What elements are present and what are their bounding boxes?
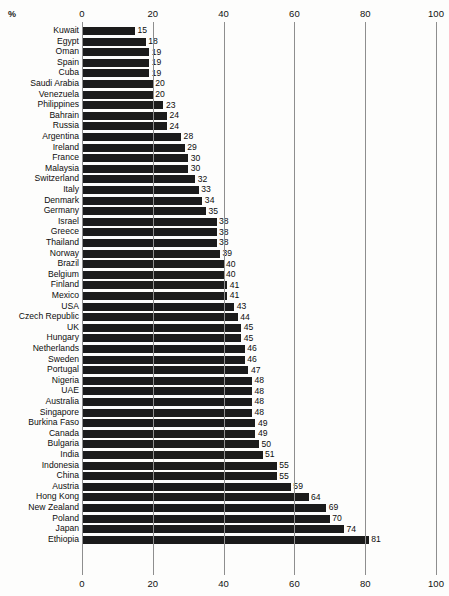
- category-label: Hungary: [0, 333, 79, 343]
- x-axis-tick-label-top: 20: [148, 8, 159, 19]
- bar: [82, 218, 217, 226]
- bar-value-label: 45: [244, 334, 254, 343]
- bar: [82, 154, 188, 162]
- category-label: Switzerland: [0, 174, 79, 184]
- category-label: Netherlands: [0, 344, 79, 354]
- category-label: Argentina: [0, 132, 79, 142]
- category-label: Hong Kong: [0, 492, 79, 502]
- bar-value-label: 49: [258, 429, 268, 438]
- bar: [82, 133, 181, 141]
- x-axis-tick-label-bottom: 20: [148, 578, 159, 589]
- bar-value-label: 30: [191, 154, 201, 163]
- category-label: China: [0, 471, 79, 481]
- category-label: Mexico: [0, 291, 79, 301]
- bar: [82, 440, 259, 448]
- bar: [82, 313, 238, 321]
- bar: [82, 472, 277, 480]
- category-label: Israel: [0, 217, 79, 227]
- bar-value-label: 41: [230, 281, 240, 290]
- category-label: Oman: [0, 47, 79, 57]
- bar: [82, 504, 326, 512]
- bar: [82, 112, 167, 120]
- gridline: [436, 22, 437, 575]
- category-label: Indonesia: [0, 461, 79, 471]
- bar-value-label: 48: [254, 376, 264, 385]
- bar: [82, 144, 185, 152]
- bar: [82, 186, 199, 194]
- category-label: New Zealand: [0, 503, 79, 513]
- bar-value-label: 40: [226, 270, 236, 279]
- x-axis-tick-label-top: 80: [360, 8, 371, 19]
- bar-value-label: 20: [155, 79, 165, 88]
- gridline: [82, 22, 83, 575]
- gridline: [224, 22, 225, 575]
- bar-value-label: 70: [332, 514, 342, 523]
- bar-value-label: 24: [169, 122, 179, 131]
- bar: [82, 356, 245, 364]
- category-label: Cuba: [0, 68, 79, 78]
- bar-value-label: 55: [279, 472, 289, 481]
- category-label: UAE: [0, 386, 79, 396]
- bar: [82, 483, 291, 491]
- bar: [82, 334, 241, 342]
- bar-value-label: 50: [262, 440, 272, 449]
- category-label: Germany: [0, 206, 79, 216]
- bar-value-label: 40: [226, 260, 236, 269]
- x-axis-tick-label-bottom: 80: [360, 578, 371, 589]
- bar: [82, 228, 217, 236]
- bar: [82, 250, 220, 258]
- category-label: France: [0, 153, 79, 163]
- gridline: [294, 22, 295, 575]
- bar: [82, 59, 149, 67]
- category-label: Brazil: [0, 259, 79, 269]
- bar: [82, 324, 241, 332]
- bar-value-label: 28: [184, 132, 194, 141]
- category-label: Denmark: [0, 196, 79, 206]
- gridline: [365, 22, 366, 575]
- bar-value-label: 23: [166, 101, 176, 110]
- bar-value-label: 29: [187, 143, 197, 152]
- bar-value-label: 35: [208, 207, 218, 216]
- bar-value-label: 48: [254, 408, 264, 417]
- x-axis-tick-label-top: 100: [428, 8, 444, 19]
- bar-value-label: 55: [279, 461, 289, 470]
- category-label: Egypt: [0, 37, 79, 47]
- category-label: Austria: [0, 482, 79, 492]
- category-label: Thailand: [0, 238, 79, 248]
- category-label: Malaysia: [0, 164, 79, 174]
- bar: [82, 345, 245, 353]
- bar: [82, 281, 227, 289]
- category-label: Portugal: [0, 365, 79, 375]
- category-label: Finland: [0, 280, 79, 290]
- bar-value-label: 32: [198, 175, 208, 184]
- category-label: Burkina Faso: [0, 418, 79, 428]
- bar: [82, 451, 263, 459]
- category-label: Norway: [0, 249, 79, 259]
- bar-value-label: 74: [346, 525, 356, 534]
- x-axis-tick-label-bottom: 40: [218, 578, 229, 589]
- bar-value-label: 46: [247, 344, 257, 353]
- category-label: Greece: [0, 227, 79, 237]
- category-label: Japan: [0, 524, 79, 534]
- bar-value-label: 34: [205, 196, 215, 205]
- bar: [82, 38, 146, 46]
- category-label: Philippines: [0, 100, 79, 110]
- bar: [82, 207, 206, 215]
- category-label: Kuwait: [0, 26, 79, 36]
- gridline: [153, 22, 154, 575]
- bar-chart: % Kuwait15Egypt18Oman19Spain19Cuba19Saud…: [0, 0, 449, 596]
- bar-value-label: 69: [329, 503, 339, 512]
- category-label: Canada: [0, 429, 79, 439]
- category-label: Bahrain: [0, 111, 79, 121]
- bar-value-label: 49: [258, 419, 268, 428]
- x-axis-tick-label-bottom: 0: [79, 578, 84, 589]
- bar-value-label: 45: [244, 323, 254, 332]
- bar-value-label: 33: [201, 185, 211, 194]
- x-axis-tick-label-bottom: 100: [428, 578, 444, 589]
- x-axis-tick-label-top: 40: [218, 8, 229, 19]
- category-label: Saudi Arabia: [0, 79, 79, 89]
- bar: [82, 303, 234, 311]
- bar: [82, 377, 252, 385]
- bar-value-label: 30: [191, 164, 201, 173]
- bar: [82, 387, 252, 395]
